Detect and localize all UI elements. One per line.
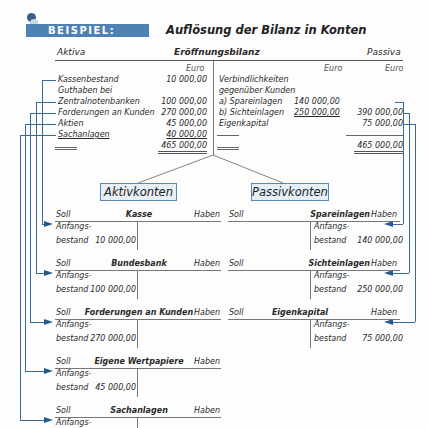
- t-account-divider: [310, 319, 311, 348]
- route-line: [395, 102, 403, 103]
- soll-label: Soll: [56, 259, 70, 268]
- arrow-right-icon: [44, 417, 53, 423]
- route-line: [20, 135, 56, 136]
- opening-value: 100 000,00: [86, 285, 136, 294]
- account-title: Eigenkapital: [240, 308, 360, 317]
- route-line: [42, 80, 56, 81]
- account-title: Bundesbank: [84, 259, 194, 268]
- account-title: Spareinlagen: [250, 210, 370, 219]
- opening-value: 75 000,00: [348, 334, 403, 343]
- route-line: [403, 102, 404, 224]
- t-account-divider: [137, 319, 138, 348]
- opening-label: bestand: [314, 334, 346, 343]
- arrow-right-icon: [44, 368, 53, 374]
- passivkonten-label: Passivkonten: [251, 183, 329, 201]
- route-line: [36, 102, 37, 273]
- route-line: [20, 135, 21, 420]
- opening-label: bestand: [56, 334, 88, 343]
- aktivkonten-label: Aktivkonten: [100, 183, 177, 201]
- haben-label: Haben: [194, 406, 220, 415]
- opening-label: bestand: [56, 285, 88, 294]
- soll-label: Soll: [56, 406, 70, 415]
- opening-label: bestand: [56, 236, 88, 245]
- opening-label: bestand: [56, 383, 88, 392]
- opening-label: Anfangs-: [56, 369, 91, 378]
- arrow-right-icon: [44, 221, 53, 227]
- soll-label: Soll: [229, 210, 243, 219]
- soll-label: Soll: [56, 357, 70, 366]
- t-account-divider: [310, 270, 311, 299]
- route-line: [409, 113, 410, 273]
- route-line: [36, 102, 56, 103]
- opening-value: 10 000,00: [86, 236, 136, 245]
- soll-label: Soll: [56, 210, 70, 219]
- route-line: [25, 124, 56, 125]
- opening-value: 250 000,00: [348, 285, 403, 294]
- opening-label: Anfangs-: [56, 271, 91, 280]
- route-line: [392, 273, 409, 274]
- t-account-divider: [310, 221, 311, 250]
- opening-label: Anfangs-: [314, 320, 349, 329]
- opening-label: Anfangs-: [314, 222, 349, 231]
- opening-value: 140 000,00: [348, 236, 403, 245]
- opening-label: Anfangs-: [314, 271, 349, 280]
- haben-label: Haben: [194, 357, 220, 366]
- haben-label: Haben: [194, 259, 220, 268]
- haben-label: Haben: [194, 308, 220, 317]
- soll-label: Soll: [56, 308, 70, 317]
- opening-value: 45 000,00: [86, 383, 136, 392]
- t-account-divider: [137, 270, 138, 299]
- haben-label: Haben: [371, 210, 397, 219]
- route-line: [30, 113, 31, 322]
- account-title: Eigene Wertpapiere: [84, 357, 194, 366]
- account-title: Sichteinlagen: [250, 259, 370, 268]
- t-account-divider: [137, 221, 138, 250]
- route-line: [25, 124, 26, 371]
- t-account-divider: [137, 417, 138, 428]
- route-line: [30, 113, 56, 114]
- haben-label: Haben: [194, 210, 220, 219]
- route-line: [392, 224, 403, 225]
- soll-label: Soll: [229, 259, 243, 268]
- opening-value: 270 000,00: [86, 334, 136, 343]
- haben-label: Haben: [371, 308, 397, 317]
- t-account-divider: [137, 368, 138, 397]
- route-line: [415, 124, 416, 322]
- opening-label: Anfangs-: [56, 418, 91, 427]
- account-title: Kasse: [84, 210, 194, 219]
- arrow-right-icon: [44, 319, 53, 325]
- opening-label: bestand: [314, 285, 346, 294]
- arrow-right-icon: [44, 270, 53, 276]
- account-title: Sachanlagen: [84, 406, 194, 415]
- route-line: [392, 322, 415, 323]
- haben-label: Haben: [371, 259, 397, 268]
- account-title: Forderungen an Kunden: [80, 308, 198, 317]
- opening-label: bestand: [314, 236, 346, 245]
- opening-label: Anfangs-: [56, 320, 91, 329]
- opening-label: Anfangs-: [56, 222, 91, 231]
